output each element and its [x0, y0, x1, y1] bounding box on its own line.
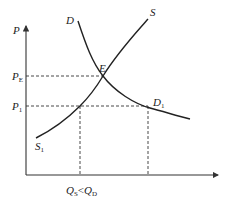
- supply-label: S: [150, 6, 156, 18]
- demand-label: D: [65, 14, 74, 26]
- p1-label: P1: [11, 100, 23, 114]
- supply-demand-diagram: P D S E PE P1 D1 S1 QS<QD: [0, 0, 228, 207]
- s1-label: S1: [35, 140, 45, 154]
- equilibrium-label: E: [98, 62, 106, 74]
- d1-label: D1: [152, 96, 165, 110]
- y-axis-label: P: [12, 24, 20, 36]
- pe-label: PE: [11, 70, 23, 84]
- quantity-comparison-label: QS<QD: [66, 184, 97, 198]
- supply-curve: [36, 19, 148, 138]
